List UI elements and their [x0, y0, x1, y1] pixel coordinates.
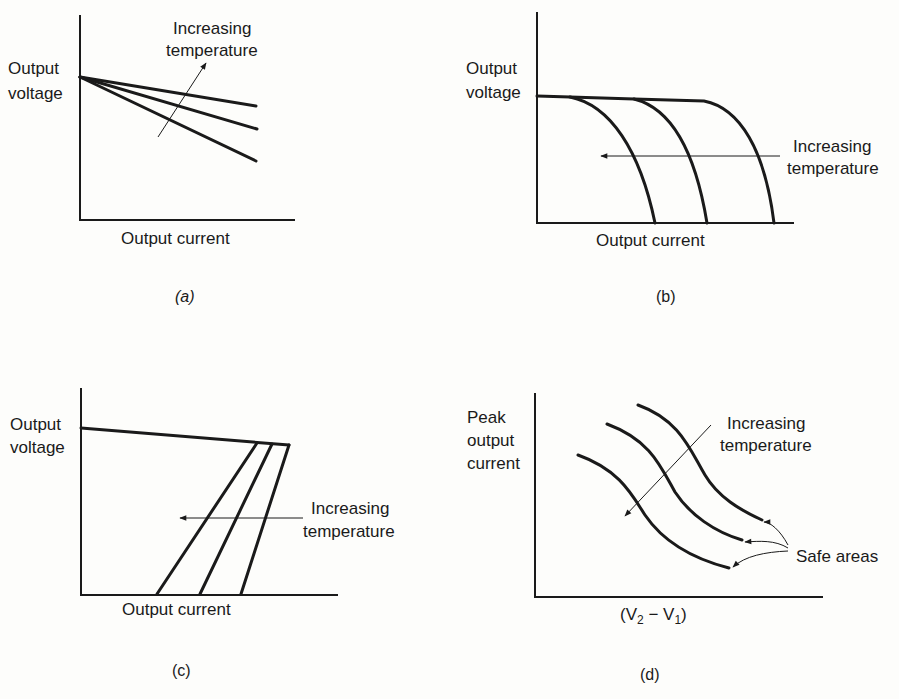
curve-c-mid-temp	[200, 444, 272, 594]
ylabel-d-line3: current	[467, 454, 520, 473]
xlabel-d: (V2 − V1)	[620, 605, 687, 627]
arrow-d-safe-area-2	[745, 541, 788, 548]
figure-canvas: Output voltage Increasing temperature Ou…	[0, 0, 899, 699]
curve-a-low-temp	[80, 77, 256, 161]
arrow-d-temperature	[625, 425, 711, 516]
ylabel-d-line1: Peak	[467, 408, 506, 427]
xlabel-d-mid: − V	[644, 605, 675, 624]
xlabel-d-open: (V	[620, 605, 638, 624]
annotation-d-line1: Increasing	[727, 414, 805, 433]
ylabel-c-line2: voltage	[10, 438, 65, 457]
annotation-c-line1: Increasing	[311, 499, 389, 518]
caption-a: (a)	[175, 288, 195, 305]
curve-b-high-temp	[537, 96, 655, 223]
xlabel-a: Output current	[121, 229, 230, 248]
annotation-a-line2: temperature	[166, 41, 258, 60]
ylabel-a-line1: Output	[8, 59, 59, 78]
annotation-d-line2: temperature	[720, 436, 812, 455]
curve-d-high-temp	[578, 455, 729, 568]
xlabel-b: Output current	[596, 231, 705, 250]
panel-a: Output voltage Increasing temperature Ou…	[8, 15, 295, 305]
panel-c: Output voltage Increasing temperature Ou…	[10, 388, 395, 679]
curve-c-low-temp	[241, 445, 289, 594]
xlabel-d-close: )	[681, 605, 687, 624]
safe-areas-label: Safe areas	[796, 547, 878, 566]
panel-b: Output voltage Increasing temperature Ou…	[466, 12, 879, 305]
annotation-b-line1: Increasing	[793, 137, 871, 156]
ylabel-c-line1: Output	[10, 415, 61, 434]
ylabel-d-line2: output	[467, 431, 515, 450]
caption-c: (c)	[172, 662, 191, 679]
xlabel-c: Output current	[122, 600, 231, 619]
ylabel-a-line2: voltage	[8, 84, 63, 103]
annotation-b-line2: temperature	[787, 159, 879, 178]
axes-c	[81, 388, 338, 595]
annotation-c-line2: temperature	[303, 522, 395, 541]
panel-d: Peak output current Increasing temperatu…	[467, 393, 878, 683]
arrow-d-safe-area-3	[733, 551, 788, 567]
annotation-a-line1: Increasing	[173, 19, 251, 38]
caption-b: (b)	[656, 288, 676, 305]
curve-b-mid-temp	[570, 97, 707, 223]
caption-d: (d)	[640, 666, 660, 683]
ylabel-b-line1: Output	[466, 59, 517, 78]
ylabel-b-line2: voltage	[466, 83, 521, 102]
